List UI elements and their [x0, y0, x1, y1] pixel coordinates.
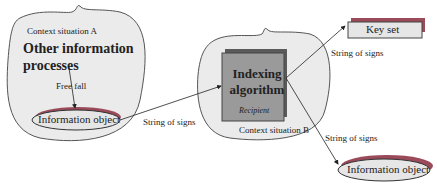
key-set-label: Key set [366, 23, 399, 35]
string-of-signs-keyset: String of signs [331, 48, 384, 58]
other-processes-title-2: processes [23, 58, 79, 74]
indexing-label-1: Indexing [232, 66, 282, 82]
context-a-label: Context situation A [27, 26, 97, 36]
other-processes-title-1: Other information [23, 41, 134, 57]
string-of-signs-a-b: String of signs [143, 117, 196, 127]
indexing-label-2: algorithm [229, 82, 285, 98]
recipient-label: Recipient [239, 106, 269, 115]
string-of-signs-object: String of signs [325, 133, 378, 143]
information-object-output-label: Information object [347, 163, 429, 175]
free-fall-label: Free fall [56, 81, 86, 91]
context-b-label: Context situation B [239, 125, 309, 135]
information-object-a-label: Information object [38, 113, 120, 125]
